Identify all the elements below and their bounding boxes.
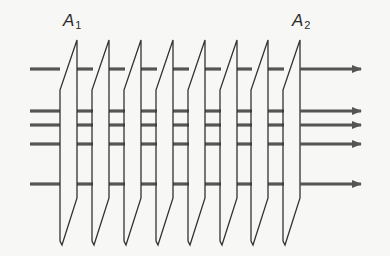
plane-2 [92,40,109,245]
label-a1-main: A [63,11,74,30]
plane-5 [188,40,205,245]
plane-3 [124,40,141,245]
plane-6 [220,40,237,245]
output-rays [300,69,361,184]
plane-4 [156,40,173,245]
plane-1 [60,40,77,245]
plane-8 [283,40,300,245]
label-a1: A1 [63,11,81,31]
plane-array-diagram [0,0,390,256]
plane-7 [251,40,268,245]
label-a2-sub: 2 [304,19,310,31]
label-a2: A2 [292,11,310,31]
label-a1-sub: 1 [75,19,81,31]
label-a2-main: A [292,11,303,30]
